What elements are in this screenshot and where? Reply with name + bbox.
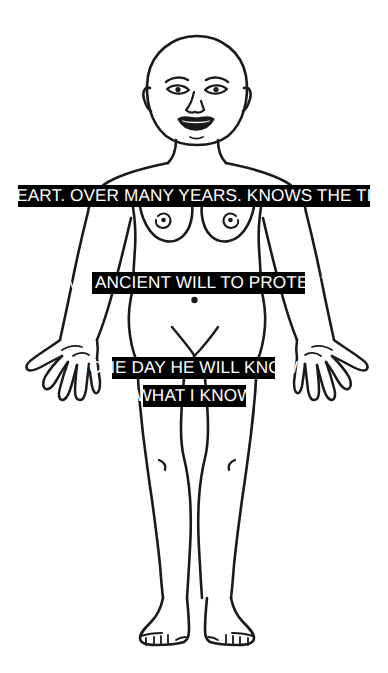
right-hand	[294, 340, 368, 400]
text-banner-heart: MY HEART. OVER MANY YEARS. KNOWS THE TRU…	[18, 185, 370, 207]
neck	[168, 140, 226, 163]
navel	[191, 297, 197, 303]
text-banner-what-i-know: WHAT I KNOW	[143, 385, 246, 407]
artwork-canvas: MY HEART. OVER MANY YEARS. KNOWS THE TRU…	[0, 0, 388, 673]
feet	[140, 598, 254, 645]
body-figure-illustration	[0, 0, 388, 673]
knee-marks	[159, 460, 165, 470]
face-features	[166, 78, 228, 139]
text-banner-ancient-will: MY ANCIENT WILL TO PROTECT	[92, 272, 305, 294]
text-banner-one-day: ONE DAY HE WILL KNOW	[112, 357, 275, 379]
